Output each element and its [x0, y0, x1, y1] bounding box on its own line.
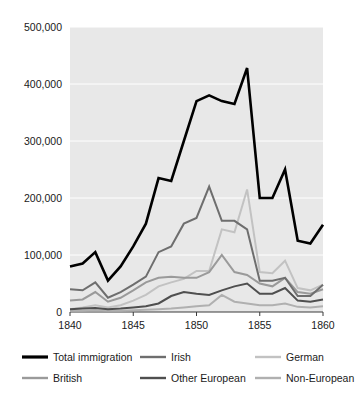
x-tick-label-1850: 1850 — [185, 319, 209, 331]
legend-label-non-european: Non-European — [286, 372, 354, 384]
legend-label-other-european: Other European — [171, 372, 246, 384]
legend-label-total-immigration: Total immigration — [53, 351, 133, 363]
x-tick-label-1860: 1860 — [311, 319, 335, 331]
x-tick-label-1855: 1855 — [248, 319, 272, 331]
y-axis-tick-labels: 0100,000200,000300,000400,000500,000 — [24, 21, 62, 318]
legend-label-german: German — [286, 351, 324, 363]
legend-label-irish: Irish — [171, 351, 191, 363]
immigration-line-chart: 0100,000200,000300,000400,000500,000 184… — [0, 0, 355, 406]
x-tick-label-1840: 1840 — [58, 319, 82, 331]
y-tick-label-100000: 100,000 — [24, 249, 62, 261]
y-tick-label-300000: 300,000 — [24, 135, 62, 147]
y-tick-label-500000: 500,000 — [24, 21, 62, 33]
x-tick-label-1845: 1845 — [122, 319, 146, 331]
y-tick-label-0: 0 — [56, 306, 62, 318]
chart-legend: Total immigrationIrishGermanBritishOther… — [22, 351, 354, 384]
y-tick-label-200000: 200,000 — [24, 192, 62, 204]
x-axis-ticks: 18401845185018551860 — [58, 312, 335, 331]
legend-label-british: British — [53, 372, 82, 384]
y-tick-label-400000: 400,000 — [24, 78, 62, 90]
